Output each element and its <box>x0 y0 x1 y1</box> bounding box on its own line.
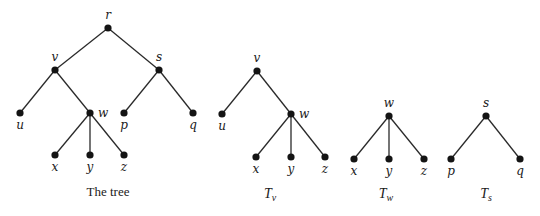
edge-w-z <box>389 116 424 159</box>
node-label-w: w <box>299 107 310 121</box>
tree-T_w: wxyzTw <box>350 96 427 203</box>
edge-s-q <box>486 116 520 159</box>
node-s <box>155 66 162 73</box>
node-p <box>447 155 454 162</box>
edge-s-p <box>451 116 486 159</box>
node-label-q: q <box>516 164 524 178</box>
node-label-p: p <box>120 118 128 132</box>
caption-full: The tree <box>87 184 130 199</box>
node-label-x: x <box>351 164 358 178</box>
node-z <box>420 155 427 162</box>
node-p <box>120 109 127 116</box>
tree-diagram: rvsuwpqxyzThe treevuwxyzTvwxyzTwspqTs <box>0 0 540 216</box>
node-v <box>51 66 58 73</box>
edge-w-x <box>256 114 291 157</box>
node-u <box>218 110 225 117</box>
node-label-y: y <box>385 164 393 178</box>
tree-full: rvsuwpqxyzThe tree <box>16 8 197 199</box>
node-label-p: p <box>447 164 455 178</box>
node-z <box>321 153 328 160</box>
node-label-q: q <box>189 118 197 132</box>
node-label-v: v <box>52 50 59 64</box>
edge-w-x <box>354 116 389 159</box>
node-s <box>482 112 489 119</box>
node-label-s: s <box>483 96 489 110</box>
edge-s-q <box>159 70 193 113</box>
edge-s-p <box>124 70 159 113</box>
edge-r-s <box>108 28 159 70</box>
node-label-s: s <box>156 50 162 64</box>
node-z <box>120 151 127 158</box>
edge-v-u <box>20 70 55 113</box>
node-label-w: w <box>384 96 395 110</box>
caption-T_v: Tv <box>264 186 277 203</box>
node-v <box>253 67 260 74</box>
node-label-y: y <box>287 162 295 176</box>
node-y <box>385 155 392 162</box>
tree-T_v: vuwxyzTv <box>218 51 329 203</box>
node-label-r: r <box>105 8 112 22</box>
edge-v-w <box>55 70 90 113</box>
node-y <box>86 151 93 158</box>
node-w <box>287 110 294 117</box>
node-label-v: v <box>254 51 261 65</box>
edge-r-v <box>55 28 108 70</box>
node-w <box>86 109 93 116</box>
edge-w-x <box>55 113 90 155</box>
node-x <box>51 151 58 158</box>
node-u <box>16 109 23 116</box>
node-q <box>189 109 196 116</box>
node-x <box>252 153 259 160</box>
node-q <box>516 155 523 162</box>
node-label-z: z <box>120 160 128 174</box>
edge-v-w <box>257 71 291 114</box>
node-label-u: u <box>16 118 24 132</box>
node-y <box>287 153 294 160</box>
caption-T_s: Ts <box>480 186 492 203</box>
node-label-y: y <box>86 160 94 174</box>
node-label-x: x <box>52 160 59 174</box>
node-r <box>104 24 111 31</box>
node-x <box>350 155 357 162</box>
node-label-z: z <box>420 164 428 178</box>
caption-T_w: Tw <box>379 186 394 203</box>
node-label-x: x <box>253 162 260 176</box>
edge-v-u <box>222 71 257 114</box>
node-label-u: u <box>218 119 226 133</box>
node-label-w: w <box>98 106 109 120</box>
node-label-z: z <box>321 162 329 176</box>
tree-T_s: spqTs <box>447 96 524 203</box>
node-w <box>385 112 392 119</box>
